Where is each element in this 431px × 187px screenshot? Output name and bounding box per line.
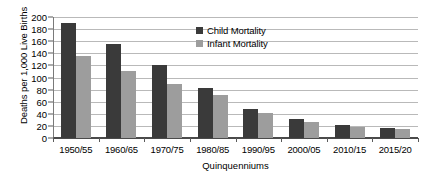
bar-infant-mortality-1950-55[interactable]	[76, 56, 91, 138]
chart-legend: Child MortalityInfant Mortality	[196, 25, 268, 49]
bar-infant-mortality-1960-65[interactable]	[121, 71, 136, 138]
x-axis-tick-label: 1980/85	[190, 144, 236, 155]
x-axis-labels: 1950/551960/651970/751980/851990/952000/…	[53, 144, 418, 155]
x-axis-tickmark	[99, 138, 100, 142]
x-axis-tick-label: 2015/20	[372, 144, 418, 155]
y-axis-tick-label: 160	[31, 36, 47, 47]
x-axis-tick-label: 1990/95	[236, 144, 282, 155]
bar-infant-mortality-2015-20[interactable]	[395, 129, 410, 138]
bar-child-mortality-1990-95[interactable]	[243, 109, 258, 138]
y-axis-tick-label: 40	[36, 108, 47, 119]
x-axis-tickmark	[327, 138, 328, 142]
y-axis-tick-label: 120	[31, 60, 47, 71]
y-axis-ticks: 200180160140120100806040200	[0, 17, 53, 138]
y-axis-tick-label: 140	[31, 48, 47, 59]
bar-group	[281, 17, 327, 138]
x-axis-tick-label: 2010/15	[327, 144, 373, 155]
bar-group	[99, 17, 145, 138]
y-axis-tick-label: 100	[31, 72, 47, 83]
bar-group	[327, 17, 373, 138]
legend-label: Child Mortality	[207, 25, 266, 36]
x-axis-tickmark	[236, 138, 237, 142]
x-axis-tickmarks	[53, 138, 418, 143]
bar-infant-mortality-2000-05[interactable]	[304, 122, 319, 138]
y-axis-tick-label: 60	[36, 96, 47, 107]
y-axis-tick-label: 200	[31, 12, 47, 23]
x-axis-tick-label: 1970/75	[144, 144, 190, 155]
bar-infant-mortality-1970-75[interactable]	[167, 84, 182, 138]
bar-chart: Deaths per 1,000 Live Births 20018016014…	[0, 0, 431, 187]
legend-swatch-icon	[196, 27, 203, 34]
x-axis-tickmark	[190, 138, 191, 142]
legend-item[interactable]: Infant Mortality	[196, 38, 268, 49]
bar-infant-mortality-1990-95[interactable]	[258, 113, 273, 138]
bar-child-mortality-2010-15[interactable]	[335, 125, 350, 138]
bar-child-mortality-2000-05[interactable]	[289, 119, 304, 138]
x-axis-tickmark	[281, 138, 282, 142]
x-axis-tickmark	[53, 138, 54, 142]
legend-swatch-icon	[196, 40, 203, 47]
x-axis-tickmark	[372, 138, 373, 142]
bar-child-mortality-1970-75[interactable]	[152, 65, 167, 138]
bar-infant-mortality-2010-15[interactable]	[350, 127, 365, 138]
y-axis-tick-label: 180	[31, 24, 47, 35]
x-axis-tick-label: 2000/05	[281, 144, 327, 155]
y-axis-tick-label: 20	[36, 120, 47, 131]
x-axis-title: Quinquenniums	[53, 160, 418, 171]
bar-group	[144, 17, 190, 138]
bar-group	[372, 17, 418, 138]
bar-child-mortality-2015-20[interactable]	[380, 128, 395, 138]
y-axis-tick-label: 0	[42, 133, 47, 144]
bar-child-mortality-1960-65[interactable]	[106, 44, 121, 138]
bar-infant-mortality-1980-85[interactable]	[213, 95, 228, 138]
x-axis-tick-label: 1960/65	[99, 144, 145, 155]
x-axis-tickmark	[418, 138, 419, 142]
bar-child-mortality-1950-55[interactable]	[61, 23, 76, 138]
y-axis-tick-label: 80	[36, 84, 47, 95]
bar-child-mortality-1980-85[interactable]	[198, 88, 213, 138]
legend-item[interactable]: Child Mortality	[196, 25, 268, 36]
x-axis-tick-label: 1950/55	[53, 144, 99, 155]
legend-label: Infant Mortality	[207, 38, 268, 49]
bar-group	[53, 17, 99, 138]
x-axis-tickmark	[144, 138, 145, 142]
